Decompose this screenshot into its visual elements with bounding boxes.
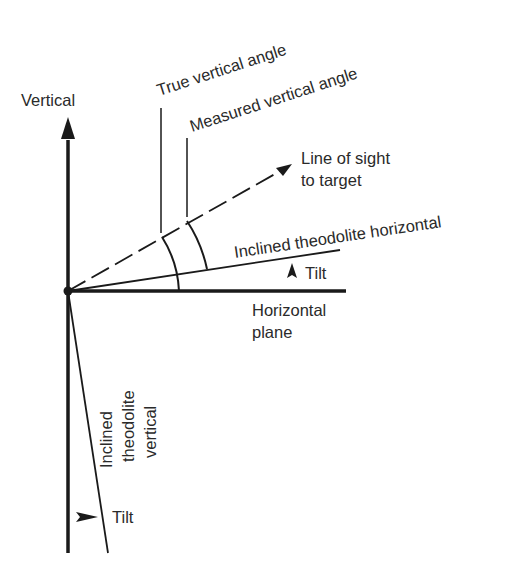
- vertical-arrowhead-icon: [61, 117, 75, 139]
- line-of-sight-arrowhead-icon: [276, 164, 292, 176]
- measured-vertical-angle-arc: [187, 221, 207, 269]
- inclined-vertical-label-line3: vertical: [141, 406, 159, 458]
- tilt-up-arrow-icon: [287, 263, 297, 278]
- inclined-vertical-label-line1: Inclined: [97, 411, 115, 468]
- horizontal-plane-label-line2: plane: [252, 323, 292, 341]
- line-of-sight-label-line1: Line of sight: [301, 149, 390, 167]
- vertical-label: Vertical: [21, 91, 75, 109]
- inclined-horizontal-label: Inclined theodolite horizontal: [233, 212, 443, 261]
- tilt-horizontal-label: Tilt: [305, 264, 327, 282]
- line-of-sight: [68, 170, 282, 291]
- true-vertical-angle-arc: [162, 237, 179, 291]
- theodolite-tilt-diagram: Vertical Horizontal plane Inclined theod…: [0, 0, 517, 580]
- line-of-sight-label-line2: to target: [301, 171, 362, 189]
- true-vertical-angle-label: True vertical angle: [154, 40, 288, 99]
- tilt-right-arrow-icon: [76, 512, 98, 522]
- horizontal-plane-label-line1: Horizontal: [252, 301, 326, 319]
- tilt-vertical-label: Tilt: [112, 508, 134, 526]
- inclined-vertical-label-line2: theodolite: [119, 390, 137, 462]
